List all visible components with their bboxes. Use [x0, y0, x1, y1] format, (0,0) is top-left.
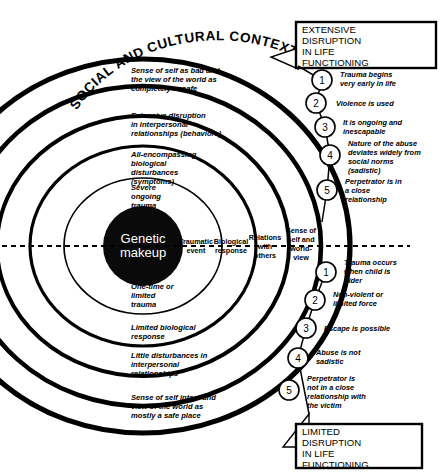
svg-text:Limited biological: Limited biological [131, 323, 196, 332]
svg-text:ongoing: ongoing [131, 192, 161, 201]
svg-text:relationships (behaviors): relationships (behaviors) [131, 129, 222, 138]
svg-text:Perpetrator is in: Perpetrator is in [345, 177, 402, 186]
svg-text:1: 1 [323, 267, 329, 278]
svg-text:Relations: Relations [249, 233, 281, 242]
svg-text:relationship: relationship [345, 195, 387, 204]
svg-text:Trauma occurs: Trauma occurs [344, 258, 397, 267]
svg-text:a close: a close [345, 186, 370, 195]
svg-text:Trauma begins: Trauma begins [340, 70, 392, 79]
svg-text:response: response [131, 332, 166, 341]
svg-text:in interpersonal: in interpersonal [131, 120, 189, 129]
svg-text:4: 4 [327, 150, 333, 161]
svg-text:LIMITED: LIMITED [302, 426, 340, 437]
svg-text:event: event [187, 246, 206, 255]
svg-text:completely unsafe: completely unsafe [131, 84, 198, 93]
svg-text:the view of the world as: the view of the world as [131, 75, 217, 84]
svg-text:others: others [254, 251, 276, 260]
svg-text:sadistic: sadistic [316, 357, 344, 366]
svg-text:5: 5 [286, 385, 292, 396]
svg-text:biological: biological [131, 159, 167, 168]
svg-text:disturbances: disturbances [131, 168, 178, 177]
svg-text:Non-violent or: Non-violent or [333, 290, 384, 299]
svg-text:response: response [215, 246, 247, 255]
svg-text:It is ongoing and: It is ongoing and [343, 118, 403, 127]
svg-text:the victim: the victim [307, 401, 342, 410]
svg-text:2: 2 [313, 98, 319, 109]
svg-text:deviates widely from: deviates widely from [348, 148, 421, 157]
svg-text:3: 3 [303, 323, 309, 334]
svg-text:FUNCTIONING: FUNCTIONING [302, 57, 369, 68]
svg-text:Biological: Biological [214, 237, 248, 246]
svg-text:trauma: trauma [131, 201, 156, 210]
core-label-line2: makeup [120, 245, 166, 260]
svg-text:(sadistic): (sadistic) [348, 166, 381, 175]
svg-text:IN LIFE: IN LIFE [302, 448, 335, 459]
bottom-callout-box: LIMITED DISRUPTION IN LIFE FUNCTIONING [296, 424, 422, 470]
top-item-1: 1 Trauma begins very early in life [312, 70, 396, 90]
svg-text:1: 1 [319, 75, 325, 86]
svg-text:self and: self and [287, 235, 314, 244]
svg-text:FUNCTIONING: FUNCTIONING [302, 459, 369, 470]
svg-text:EXTENSIVE: EXTENSIVE [302, 24, 356, 35]
svg-text:relationship with: relationship with [307, 392, 366, 401]
svg-text:All-encompassing: All-encompassing [130, 150, 197, 159]
svg-text:Little disturbances in: Little disturbances in [131, 351, 208, 360]
svg-text:not in a close: not in a close [307, 383, 354, 392]
svg-text:5: 5 [324, 185, 330, 196]
svg-text:with: with [257, 242, 272, 251]
svg-text:view: view [293, 253, 309, 262]
svg-text:Severe: Severe [131, 183, 157, 192]
svg-text:Abuse is not: Abuse is not [315, 348, 361, 357]
svg-text:Perpetrator is: Perpetrator is [307, 374, 355, 383]
svg-text:mostly a safe place: mostly a safe place [131, 411, 201, 420]
svg-text:inescapable: inescapable [343, 127, 385, 136]
svg-text:Sense of self intact and: Sense of self intact and [131, 393, 216, 402]
svg-text:social norms: social norms [348, 157, 394, 166]
svg-text:3: 3 [322, 122, 328, 133]
svg-text:limited force: limited force [333, 299, 377, 308]
svg-text:DISRUPTION: DISRUPTION [302, 437, 361, 448]
axis-label-biological-response: Biological response [214, 237, 248, 255]
svg-text:world-: world- [289, 244, 312, 253]
svg-text:interpersonal: interpersonal [131, 360, 180, 369]
svg-text:trauma: trauma [131, 300, 156, 309]
svg-text:very early in life: very early in life [340, 79, 396, 88]
svg-text:Nature of the abuse: Nature of the abuse [348, 139, 417, 148]
trauma-impact-concentric-diagram: Genetic makeup SOCIAL AND CULTURAL CONTE… [0, 0, 443, 474]
svg-text:Traumatic: Traumatic [179, 237, 213, 246]
svg-text:Escape is possible: Escape is possible [324, 324, 390, 333]
svg-text:IN LIFE: IN LIFE [302, 46, 335, 57]
svg-text:older: older [344, 276, 363, 285]
svg-text:Extensive disruption: Extensive disruption [131, 111, 206, 120]
top-callout-box: EXTENSIVE DISRUPTION IN LIFE FUNCTIONING [296, 22, 436, 68]
svg-text:Sense of: Sense of [286, 226, 317, 235]
svg-text:2: 2 [312, 295, 318, 306]
svg-text:when child is: when child is [344, 267, 390, 276]
svg-text:limited: limited [131, 291, 156, 300]
svg-text:Sense of self as bad and: Sense of self as bad and [131, 66, 220, 75]
svg-text:One-time or: One-time or [131, 282, 175, 291]
bottom-item-2: 2 Non-violent or limited force [305, 290, 384, 310]
svg-text:relationships: relationships [131, 369, 178, 378]
svg-text:4: 4 [295, 353, 301, 364]
core-label-line1: Genetic [121, 231, 166, 246]
svg-text:DISRUPTION: DISRUPTION [302, 35, 361, 46]
svg-text:view of the world as: view of the world as [131, 402, 203, 411]
svg-text:Violence is used: Violence is used [336, 99, 394, 108]
